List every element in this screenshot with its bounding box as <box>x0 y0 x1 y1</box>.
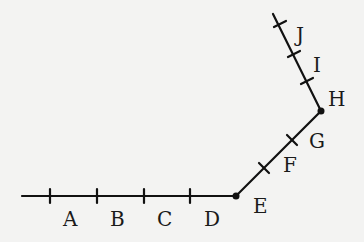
label-h: H <box>328 87 345 111</box>
label-c: C <box>157 207 172 231</box>
label-f: F <box>283 153 297 177</box>
label-e: E <box>253 194 268 218</box>
vertex-dot <box>318 108 325 115</box>
label-d: D <box>204 207 220 231</box>
label-g: G <box>309 129 325 153</box>
bent-line <box>22 14 321 196</box>
label-a: A <box>62 207 78 231</box>
label-j: J <box>294 23 304 47</box>
segment-diagram: A B C D E F G H I J <box>0 0 364 242</box>
label-b: B <box>110 207 125 231</box>
label-i: I <box>313 53 321 77</box>
vertex-dot <box>233 193 240 200</box>
